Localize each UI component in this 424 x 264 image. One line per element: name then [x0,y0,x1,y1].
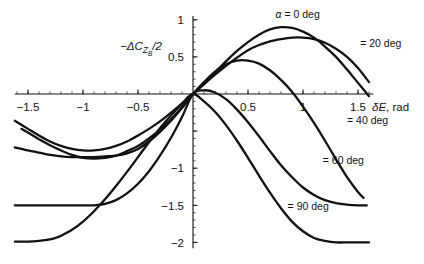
label-alpha-0: α = 0 deg [276,8,320,20]
x-tick-label: −1.5 [17,101,40,113]
chart-figure: −1.5−1−0.50.511.5 10.5−1−1.5−2 α = 0 deg… [0,0,424,264]
x-tick-label: −1 [76,101,89,113]
y-tick-label: −2 [171,237,184,249]
label-alpha-60: = 60 deg [323,154,364,166]
label-alpha-40: = 40 deg [347,114,388,126]
x-tick-label: −0.5 [127,101,150,113]
label-alpha-20: = 20 deg [360,37,401,49]
y-tick-label: 1 [178,14,184,26]
chart-svg: −1.5−1−0.50.511.5 10.5−1−1.5−2 α = 0 deg… [0,0,424,264]
y-tick-label: 0.5 [168,51,184,63]
x-tick-label: 1.5 [350,101,366,113]
y-tick-label: −1 [171,162,184,174]
label-alpha-90: = 90 deg [288,200,329,212]
x-tick-label: 0.5 [240,101,256,113]
x-axis-label: δE, rad [372,101,409,113]
y-tick-label: −1.5 [161,200,184,212]
svg-text:δE, rad: δE, rad [372,101,409,113]
